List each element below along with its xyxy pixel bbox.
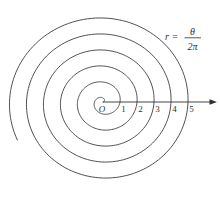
spiral-curve <box>9 18 188 178</box>
tick-label-4: 4 <box>172 104 177 114</box>
tick-label-3: 3 <box>155 104 160 114</box>
origin-label: O <box>99 104 106 114</box>
axis-tick-labels: 12345 <box>121 104 194 114</box>
tick-label-1: 1 <box>121 104 126 114</box>
spiral-figure: O 12345 r = θ 2π <box>0 0 220 197</box>
equation-denominator: 2π <box>187 41 198 52</box>
tick-label-5: 5 <box>189 104 194 114</box>
equation-label: r = θ 2π <box>165 26 201 52</box>
tick-label-2: 2 <box>138 104 143 114</box>
equation-numerator: θ <box>190 26 195 37</box>
spiral-plot-svg: O 12345 r = θ 2π <box>0 0 220 197</box>
x-axis-arrowhead-icon <box>210 99 218 105</box>
equation-lhs: r = <box>165 31 178 42</box>
